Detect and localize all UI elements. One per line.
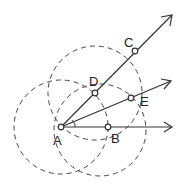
label-C: C	[124, 35, 133, 50]
construction-svg: A B C D E	[0, 0, 193, 186]
point-A	[58, 124, 64, 130]
label-E: E	[140, 94, 149, 109]
point-B	[105, 124, 111, 130]
diagram-canvas: A B C D E	[0, 0, 193, 186]
point-E	[128, 95, 134, 101]
label-B: B	[111, 131, 120, 146]
point-D	[92, 90, 98, 96]
ray-AE	[61, 81, 171, 127]
label-A: A	[53, 133, 62, 148]
label-D: D	[89, 74, 98, 89]
ray-AC	[61, 15, 172, 127]
